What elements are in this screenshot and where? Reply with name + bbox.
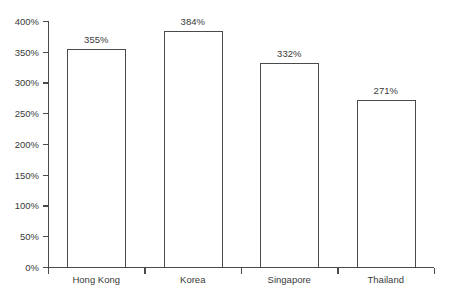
y-axis-tick-label: 50%: [20, 231, 40, 242]
bar[interactable]: [165, 32, 223, 268]
x-axis-category-label: Thailand: [368, 274, 404, 285]
x-axis-category-label: Singapore: [268, 274, 311, 285]
y-axis-tick-label: 0%: [25, 262, 39, 273]
y-axis-tick-label: 100%: [15, 200, 40, 211]
bar-value-label: 384%: [181, 16, 206, 27]
x-axis-category-label: Korea: [180, 274, 206, 285]
x-axis-category-label: Hong Kong: [72, 274, 120, 285]
y-axis-tick-label: 300%: [15, 77, 40, 88]
bar-value-label: 332%: [277, 48, 302, 59]
y-axis-tick-label: 350%: [15, 47, 40, 58]
bar-chart: 0%50%100%150%200%250%300%350%400%355%Hon…: [0, 0, 452, 297]
bar[interactable]: [68, 50, 126, 268]
bar-value-label: 355%: [84, 34, 109, 45]
y-axis-tick-label: 200%: [15, 139, 40, 150]
bar[interactable]: [358, 101, 416, 268]
y-axis-tick-label: 400%: [15, 16, 40, 27]
bar-value-label: 271%: [374, 85, 399, 96]
y-axis-tick-label: 250%: [15, 108, 40, 119]
bar[interactable]: [261, 64, 319, 268]
chart-canvas: 0%50%100%150%200%250%300%350%400%355%Hon…: [0, 0, 452, 297]
y-axis-tick-label: 150%: [15, 170, 40, 181]
